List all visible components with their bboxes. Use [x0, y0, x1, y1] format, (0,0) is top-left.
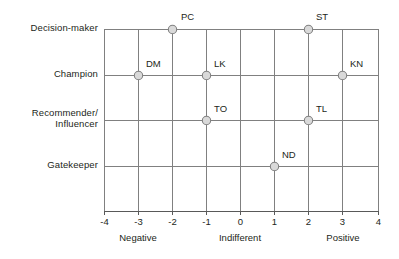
x-axis-tick-label--4: -4: [94, 216, 115, 227]
data-point-label-st: ST: [316, 11, 328, 22]
data-point-label-pc: PC: [181, 11, 194, 22]
y-axis-label-recommender-influencer: Recommender/ Influencer: [0, 107, 98, 129]
influence-position-scatter-chart: Decision-maker Champion Recommender/ Inf…: [0, 0, 399, 259]
x-axis-group-label-negative: Negative: [103, 232, 173, 243]
x-axis-tick-label--1: -1: [196, 216, 217, 227]
data-point-label-nd: ND: [282, 149, 296, 160]
data-point-label-to: TO: [214, 103, 227, 114]
data-point-marker-tl[interactable]: [304, 116, 312, 124]
x-axis-tick-label--3: -3: [128, 216, 149, 227]
data-point-marker-nd[interactable]: [270, 162, 278, 170]
data-point-marker-to[interactable]: [202, 116, 210, 124]
data-point-marker-st[interactable]: [304, 25, 312, 33]
data-point-label-dm: DM: [146, 58, 161, 69]
x-axis-tick-label--2: -2: [162, 216, 183, 227]
data-point-label-lk: LK: [214, 58, 226, 69]
y-axis-label-champion: Champion: [0, 68, 98, 79]
data-point-marker-kn[interactable]: [338, 71, 346, 79]
y-axis-label-gatekeeper: Gatekeeper: [0, 159, 98, 170]
data-point-label-tl: TL: [316, 103, 327, 114]
x-axis-tick-label-1: 1: [264, 216, 285, 227]
x-axis-tick-label-0: 0: [230, 216, 251, 227]
x-axis-tick-label-4: 4: [368, 216, 389, 227]
x-axis-tick-label-2: 2: [298, 216, 319, 227]
data-point-marker-dm[interactable]: [134, 71, 142, 79]
data-point-marker-lk[interactable]: [202, 71, 210, 79]
y-axis-label-decision-maker: Decision-maker: [0, 22, 98, 33]
x-axis-group-label-indifferent: Indifferent: [205, 232, 275, 243]
data-point-marker-pc[interactable]: [168, 25, 176, 33]
x-axis-tick-label-3: 3: [332, 216, 353, 227]
data-point-label-kn: KN: [350, 58, 363, 69]
x-axis-group-label-positive: Positive: [308, 232, 378, 243]
